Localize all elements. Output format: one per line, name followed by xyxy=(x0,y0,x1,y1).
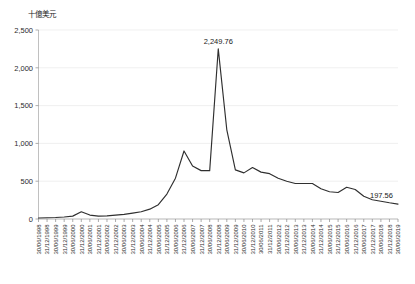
x-tick-label: 30/06/2012 xyxy=(276,224,282,255)
line-chart: 05001,0001,5002,0002,500 30/06/199831/12… xyxy=(0,0,415,284)
x-tick-label: 31/12/2008 xyxy=(216,224,222,255)
x-tick-label: 31/12/2018 xyxy=(387,224,393,255)
x-tick-label: 30/06/2010 xyxy=(241,224,247,255)
y-tick-label: 2,000 xyxy=(14,64,33,73)
x-tick-label: 31/12/1999 xyxy=(62,224,68,255)
chart-container: 05001,0001,5002,0002,500 30/06/199831/12… xyxy=(0,0,415,284)
x-tick-label: 30/06/2000 xyxy=(70,224,76,255)
y-tick-label: 1,500 xyxy=(14,101,33,110)
x-axis-ticks xyxy=(39,219,399,222)
x-tick-label: 30/06/2005 xyxy=(156,224,162,255)
x-tick-label: 31/12/2017 xyxy=(370,224,376,255)
x-tick-label: 30/06/2006 xyxy=(173,224,179,255)
x-tick-label: 30/06/2008 xyxy=(207,224,213,255)
x-tick-label: 30/06/1998 xyxy=(36,224,42,255)
x-tick-label: 31/12/2012 xyxy=(284,224,290,255)
data-point-label: 2,249.76 xyxy=(204,37,233,46)
annotations-group: 2,249.76197.56 xyxy=(204,37,393,200)
x-tick-label: 31/12/2013 xyxy=(301,224,307,255)
x-tick-label: 30/06/2004 xyxy=(139,224,145,255)
x-tick-label: 31/12/2002 xyxy=(113,224,119,255)
x-tick-label: 31/12/2010 xyxy=(250,224,256,255)
axes-group xyxy=(39,30,399,219)
x-axis-labels: 30/06/199831/12/199830/06/199931/12/1999… xyxy=(36,224,402,255)
x-tick-label: 31/12/2006 xyxy=(181,224,187,255)
y-tick-label: 500 xyxy=(20,177,33,186)
x-tick-label: 30/06/2017 xyxy=(361,224,367,255)
data-point-label: 197.56 xyxy=(370,191,393,200)
x-tick-label: 31/12/2011 xyxy=(267,224,273,254)
y-axis-title: 十億美元 xyxy=(28,9,57,19)
x-tick-label: 30/06/2014 xyxy=(310,224,316,255)
y-tick-label: 2,500 xyxy=(14,26,33,35)
x-tick-label: 31/12/2000 xyxy=(79,224,85,255)
x-tick-label: 30/06/2009 xyxy=(224,224,230,255)
y-tick-label: 0 xyxy=(29,215,33,224)
x-tick-label: 30/06/1999 xyxy=(53,224,59,255)
x-tick-label: 31/12/2001 xyxy=(96,224,102,255)
x-tick-label: 31/12/2015 xyxy=(335,224,341,255)
x-tick-label: 31/12/2005 xyxy=(164,224,170,255)
x-tick-label: 30/06/2002 xyxy=(104,224,110,255)
x-tick-label: 31/12/2009 xyxy=(233,224,239,255)
x-tick-label: 31/12/2016 xyxy=(353,224,359,255)
x-tick-label: 31/12/2003 xyxy=(130,224,136,255)
gridlines-group xyxy=(39,30,399,219)
x-tick-label: 30/06/2001 xyxy=(87,224,93,255)
y-tick-label: 1,000 xyxy=(14,139,33,148)
x-tick-label: 30/06/2018 xyxy=(378,224,384,255)
x-tick-label: 31/12/2004 xyxy=(147,224,153,255)
series-group xyxy=(39,49,399,218)
x-tick-label: 30/06/2007 xyxy=(190,224,196,255)
series-line xyxy=(39,49,399,218)
x-tick-label: 30/06/2019 xyxy=(395,224,401,255)
x-tick-label: 30/06/2003 xyxy=(121,224,127,255)
x-tick-label: 30/06/2016 xyxy=(344,224,350,255)
y-axis-ticks: 05001,0001,5002,0002,500 xyxy=(14,26,38,224)
x-tick-label: 30/06/2015 xyxy=(327,224,333,255)
x-tick-label: 31/12/2014 xyxy=(318,224,324,255)
x-tick-label: 31/12/2007 xyxy=(199,224,205,255)
x-tick-label: 31/12/1998 xyxy=(44,224,50,255)
x-tick-label: 30/06/2013 xyxy=(293,224,299,255)
x-tick-label: 30/06/2011 xyxy=(258,224,264,254)
